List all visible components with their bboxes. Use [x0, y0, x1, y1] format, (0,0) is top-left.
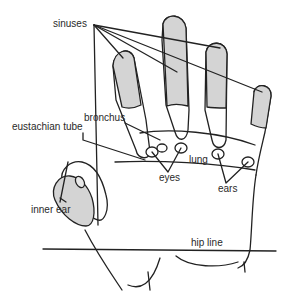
- lung-band-bottom: [115, 161, 255, 170]
- label-hip-line: hip line: [191, 238, 223, 248]
- wrist-middle: [176, 256, 238, 266]
- label-ears: ears: [218, 184, 237, 194]
- label-lung: lung: [189, 155, 208, 165]
- wrist-left: [128, 258, 160, 287]
- palm-right-outline: [238, 175, 256, 268]
- sinuses-leader-3: [94, 25, 220, 48]
- palm-outline: [85, 230, 122, 290]
- label-inner-ear: inner ear: [31, 205, 70, 215]
- hand-drawing: [0, 0, 286, 300]
- ring-finger-tip-shaded: [206, 43, 227, 108]
- hand-reflexology-diagram: sinuses bronchus eustachian tube lung ey…: [0, 0, 286, 300]
- hip-line: [43, 249, 276, 251]
- label-bronchus: bronchus: [84, 113, 125, 123]
- label-sinuses: sinuses: [53, 19, 87, 29]
- label-eustachian-tube: eustachian tube: [12, 122, 83, 132]
- eye-spot-2: [157, 144, 167, 152]
- label-eyes: eyes: [159, 173, 180, 183]
